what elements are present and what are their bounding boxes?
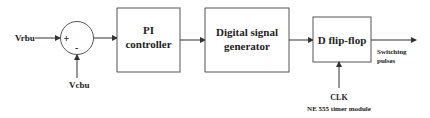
plus-sign: +	[64, 33, 70, 44]
clock-label: CLK	[330, 93, 348, 102]
clock-source-label: NE 555 timer module	[307, 105, 371, 113]
flip-flop-label: D flip-flop	[318, 34, 367, 46]
vcbu-label: Vcbu	[69, 80, 90, 90]
signal-generator-title: Digital signal	[216, 26, 278, 38]
output-label-line1: Switching	[377, 48, 407, 56]
signal-generator-subtitle: generator	[224, 40, 270, 52]
output-label-line2: pulses	[377, 57, 396, 65]
minus-sign: -	[75, 42, 78, 53]
block-diagram: Vrbu + - Vcbu PI controller Digital sign…	[0, 0, 430, 118]
pi-controller-title: PI	[143, 24, 154, 36]
diagram-canvas: Vrbu + - Vcbu PI controller Digital sign…	[0, 0, 430, 118]
pi-controller-subtitle: controller	[125, 38, 171, 50]
vrbu-label: Vrbu	[15, 33, 35, 43]
